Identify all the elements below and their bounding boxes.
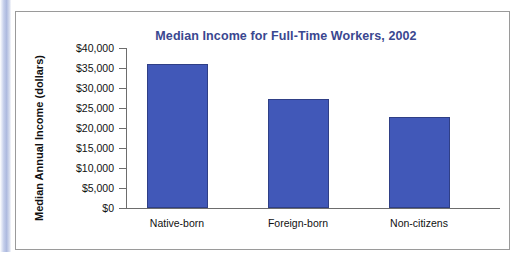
bar-native-born [147,64,208,208]
y-tick-mark [119,108,126,109]
bar-foreign-born [268,99,329,208]
y-tick-label: $0 [44,202,114,214]
bar-non-citizens [389,117,450,208]
y-tick-mark [119,128,126,129]
y-tick-label: $30,000 [44,82,114,94]
x-axis-line [126,208,500,209]
category-label: Non-citizens [390,217,448,229]
category-label: Foreign-born [268,217,328,229]
decorative-left-stripe [0,0,11,252]
chart-figure-frame: Median Income for Full-Time Workers, 200… [15,11,510,250]
y-tick-mark [119,68,126,69]
y-tick-mark [119,148,126,149]
plot-area: $40,000$35,000$30,000$25,000$20,000$15,0… [16,12,511,251]
category-label: Native-born [150,217,204,229]
y-tick-mark [119,188,126,189]
y-tick-label: $15,000 [44,142,114,154]
y-tick-mark [119,208,126,209]
y-tick-label: $10,000 [44,162,114,174]
y-tick-label: $40,000 [44,42,114,54]
y-tick-label: $5,000 [44,182,114,194]
y-tick-mark [119,168,126,169]
y-tick-label: $20,000 [44,122,114,134]
y-tick-label: $35,000 [44,62,114,74]
y-tick-mark [119,88,126,89]
y-tick-label: $25,000 [44,102,114,114]
y-tick-mark [119,48,126,49]
y-axis-line [126,48,127,208]
